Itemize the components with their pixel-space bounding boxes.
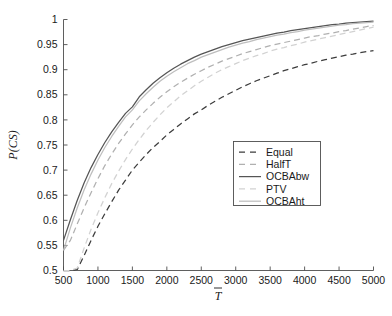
- axes-frame: [64, 20, 374, 271]
- y-tick-label: 0.9: [43, 63, 58, 75]
- x-tick-label: 3500: [258, 274, 282, 286]
- x-axis-title: T: [214, 288, 223, 303]
- y-tick-label: 0.85: [37, 88, 58, 100]
- data-series-group: [64, 21, 374, 270]
- y-axis-tick-labels: 0.50.550.60.650.70.750.80.850.90.951: [37, 13, 58, 276]
- chart-figure: 0.50.550.60.650.70.750.80.850.90.951 500…: [0, 0, 392, 316]
- y-tick-label: 0.8: [43, 114, 58, 126]
- x-tick-label: 2500: [190, 274, 214, 286]
- y-tick-label: 0.55: [37, 239, 58, 251]
- series-ocbabw: [64, 21, 374, 240]
- x-tick-label: 2000: [155, 274, 179, 286]
- legend-label-ocbabw: OCBAbw: [266, 170, 310, 182]
- x-axis-ticks: [64, 267, 374, 271]
- legend-label-ptv: PTV: [266, 183, 286, 195]
- legend-label-ocbaht: OCBAht: [266, 195, 305, 207]
- line-chart: 0.50.550.60.650.70.750.80.850.90.951 500…: [0, 0, 392, 316]
- series-ptv: [64, 27, 374, 270]
- x-tick-label: 4000: [293, 274, 317, 286]
- y-axis-title: P(CS): [6, 130, 20, 160]
- axis-lines: [64, 20, 374, 271]
- y-tick-label: 0.75: [37, 139, 58, 151]
- x-tick-label: 4500: [327, 274, 351, 286]
- x-axis-tick-labels: 500100015002000250030003500400045005000: [55, 274, 386, 286]
- x-tick-label: 1000: [86, 274, 110, 286]
- legend-label-equal: Equal: [266, 146, 293, 158]
- y-tick-label: 1: [52, 13, 58, 25]
- x-axis-title-glyph: T: [215, 289, 223, 303]
- chart-legend: EqualHalfTOCBAbwPTVOCBAht: [234, 142, 321, 207]
- x-tick-label: 1500: [121, 274, 145, 286]
- legend-label-halft: HalfT: [266, 158, 292, 170]
- y-tick-label: 0.6: [43, 214, 58, 226]
- x-tick-label: 5000: [362, 274, 386, 286]
- y-tick-label: 0.65: [37, 189, 58, 201]
- x-tick-label: 3000: [224, 274, 248, 286]
- x-tick-label: 500: [55, 274, 73, 286]
- series-ocbaht: [64, 22, 374, 250]
- series-equal: [64, 51, 374, 271]
- y-tick-label: 0.95: [37, 38, 58, 50]
- y-tick-label: 0.7: [43, 164, 58, 176]
